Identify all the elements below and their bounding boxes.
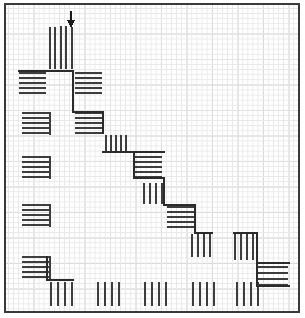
- staircase-drawing: [6, 5, 300, 313]
- hatch-group-step5-vertical: [235, 234, 253, 260]
- hatch-group-step2-horizontal: [135, 157, 162, 177]
- hatch-group-left-row3: [22, 156, 50, 179]
- figure-root: [0, 0, 305, 318]
- hatch-group-step5-horizontal: [257, 267, 288, 285]
- arrow-down-icon: [68, 11, 75, 27]
- hatch-group-base-4: [193, 282, 214, 306]
- hatch-group-base-1: [51, 282, 72, 306]
- hatch-group-step4-vertical: [192, 234, 210, 257]
- hatch-marks: [19, 26, 288, 306]
- hatch-group-top-left-vertical: [50, 26, 72, 69]
- plot-frame: [4, 3, 300, 313]
- hatch-group-mid-row2: [75, 113, 103, 133]
- staircase-boundary-path: [19, 71, 289, 286]
- hatch-group-base-5: [237, 282, 258, 306]
- hatch-group-step3-vertical: [144, 183, 162, 204]
- hatch-group-base-3: [145, 282, 166, 306]
- hatch-group-step3-horizontal: [167, 207, 195, 227]
- boundary-connectors: [47, 152, 212, 280]
- hatch-group-base-2: [98, 282, 119, 306]
- hatch-group-top-right-horizontal: [75, 73, 102, 93]
- hatch-group-left-row5: [22, 256, 50, 279]
- hatch-group-left-row2: [22, 112, 50, 135]
- hatch-group-step2-vertical: [106, 135, 126, 151]
- hatch-group-left-row4: [22, 204, 50, 227]
- hatch-group-top-left-horizontal: [19, 73, 46, 93]
